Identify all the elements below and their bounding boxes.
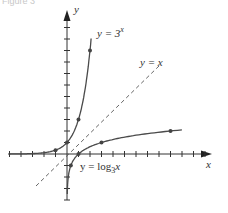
exp-curve <box>10 39 92 155</box>
identity-line-label: y = x <box>140 56 163 68</box>
data-point <box>169 129 173 133</box>
y-axis-arrow-icon <box>64 10 71 21</box>
y-axis-label: y <box>74 3 79 15</box>
exp-label-text: y = 3 <box>97 27 120 39</box>
data-point <box>100 141 104 145</box>
data-point <box>88 49 92 53</box>
data-point <box>77 152 81 156</box>
data-point <box>65 141 69 145</box>
exp-label-exponent: x <box>120 25 124 34</box>
x-axis-arrow-icon <box>201 151 212 158</box>
x-axis <box>8 151 212 158</box>
log-label-var: x <box>115 160 120 172</box>
exp-curve-label: y = 3x <box>97 25 124 39</box>
data-point <box>77 118 81 122</box>
data-point <box>54 148 58 152</box>
figure: Figure 3 y x y = 3x y = x y = log3x <box>0 0 228 213</box>
log-label-text: y = log <box>80 160 111 172</box>
x-axis-label: x <box>206 158 211 170</box>
data-point <box>69 164 73 168</box>
log-curve-label: y = log3x <box>80 160 120 175</box>
